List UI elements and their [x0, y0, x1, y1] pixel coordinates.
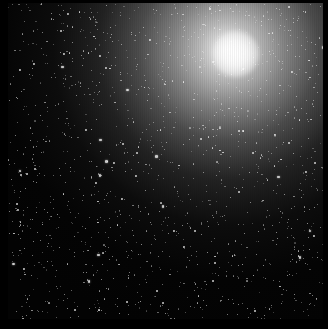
sensor-grain — [8, 3, 323, 319]
astronomical-image — [8, 3, 323, 319]
image-frame — [0, 0, 328, 329]
